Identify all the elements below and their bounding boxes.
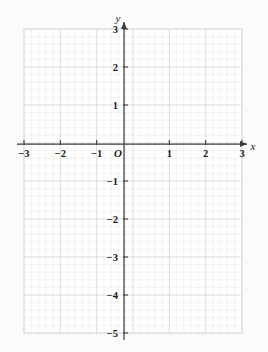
y-axis-arrow-icon [121,22,127,29]
y-tick-label: −3 [107,252,118,263]
y-tick-label: 2 [113,62,118,73]
coordinate-grid-svg: −3−2−1123 321−1−2−3−4−5 O y x [0,0,268,352]
y-axis-label: y [115,12,121,24]
coordinate-plane: −3−2−1123 321−1−2−3−4−5 O y x [0,0,268,352]
y-tick-label: −5 [107,328,118,339]
x-tick-label: −2 [55,148,66,159]
origin-label: O [114,147,122,159]
x-tick-label: 2 [203,148,208,159]
x-tick-label: −1 [91,148,102,159]
x-axis-label: x [250,140,256,152]
x-tick-label: 1 [167,148,172,159]
y-tick-label: 3 [113,24,118,35]
x-tick-label: 3 [239,148,244,159]
x-tick-label: −3 [18,148,29,159]
x-axis-arrow-icon [240,141,247,147]
y-tick-label: −1 [107,176,118,187]
y-tick-label: 1 [113,100,118,111]
y-tick-label: −4 [107,290,119,301]
y-tick-label: −2 [107,214,118,225]
